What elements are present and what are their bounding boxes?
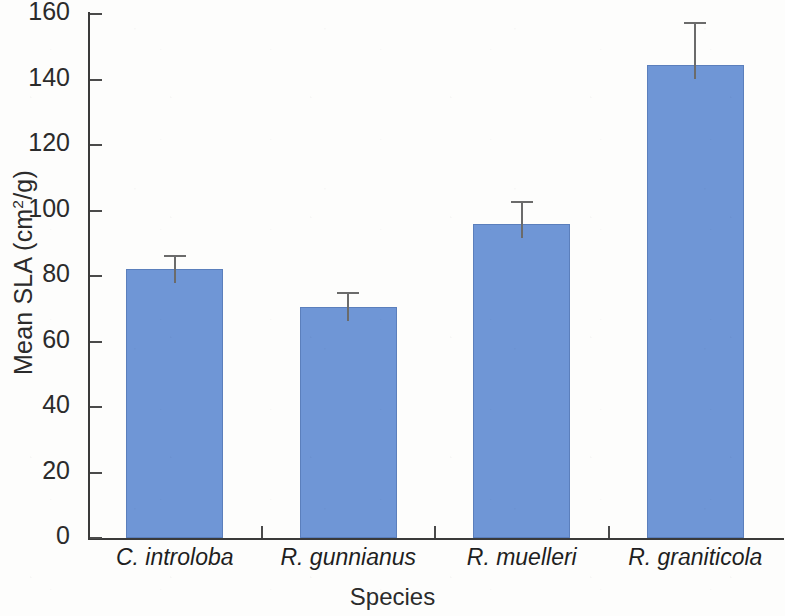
y-axis-tick (90, 537, 102, 539)
x-axis-title: Species (0, 583, 785, 611)
y-axis-tick-labels: 020406080100120140160 (0, 14, 80, 538)
error-bar-stem (347, 292, 349, 321)
y-axis-tick-label: 20 (42, 456, 70, 485)
x-axis-category-label: C. introloba (88, 544, 262, 571)
x-axis-category-label: R. graniticola (609, 544, 783, 571)
x-axis-tick (261, 526, 263, 538)
y-axis-tick-label: 40 (42, 390, 70, 419)
plot-area (88, 14, 782, 538)
x-axis-category-labels: C. introlobaR. gunnianusR. muelleriR. gr… (88, 544, 784, 580)
bar-chart-figure: Mean SLA (cm2/g) 020406080100120140160 C… (0, 0, 785, 616)
error-bar-cap (511, 201, 533, 203)
y-axis-tick-label: 100 (28, 194, 70, 223)
y-axis-tick (90, 406, 102, 408)
error-bar-stem (174, 255, 176, 284)
x-axis-category-label: R. gunnianus (262, 544, 436, 571)
y-axis-tick (90, 210, 102, 212)
bar (126, 269, 223, 538)
error-bar-cap (337, 292, 359, 294)
error-bar-stem (521, 201, 523, 238)
x-axis-category-label: R. muelleri (435, 544, 609, 571)
y-axis-tick (90, 472, 102, 474)
y-axis-tick-label: 60 (42, 325, 70, 354)
y-axis-tick-label: 160 (28, 0, 70, 26)
bar (300, 307, 397, 538)
y-axis-tick (90, 79, 102, 81)
y-axis-tick (90, 341, 102, 343)
bar (647, 65, 744, 538)
error-bar-cap (684, 22, 706, 24)
bar (473, 224, 570, 538)
x-axis-line (88, 538, 784, 540)
y-axis-tick (90, 275, 102, 277)
y-axis-tick (90, 144, 102, 146)
x-axis-tick (434, 526, 436, 538)
error-bar-cap (164, 255, 186, 257)
y-axis-tick-label: 80 (42, 259, 70, 288)
y-axis-tick-label: 140 (28, 63, 70, 92)
x-axis-tick (608, 526, 610, 538)
y-axis-tick (90, 13, 102, 15)
y-axis-tick-label: 0 (56, 521, 70, 550)
y-axis-tick-label: 120 (28, 128, 70, 157)
error-bar-stem (694, 22, 696, 79)
